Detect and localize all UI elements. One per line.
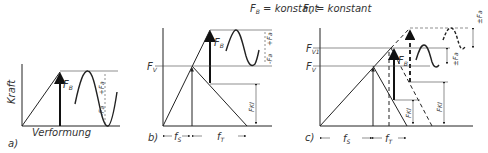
member-line (373, 66, 407, 126)
fs-label: fS (174, 131, 182, 143)
amp-plus-label: +Fa (266, 32, 274, 46)
x-axis-label: Verformung (32, 127, 91, 138)
amp-minus-label: ±Fa (452, 52, 460, 66)
clamp-label: FKl (405, 108, 413, 118)
panel-c: FV = konstant FV1 FV FB ±Fa ±Fa FKl FKl … (303, 3, 484, 145)
amp-plus-label: +Fa (98, 81, 106, 95)
panel-a-caption: a) (8, 138, 18, 149)
sine-wave (75, 71, 117, 126)
clamp-label: FKl (248, 102, 256, 112)
preload-label: FV (147, 61, 158, 73)
clamp1-label: FKl (436, 102, 444, 112)
bolt-line (320, 48, 391, 126)
amp-plus-label: ±Fa (476, 10, 484, 24)
bolt-line-ext (391, 28, 410, 48)
sine-wave-shifted (443, 28, 465, 49)
preload1-label: FV1 (306, 43, 320, 55)
fs-label: fS (343, 133, 351, 145)
panel-b-caption: b) (148, 132, 158, 143)
panel-c-heading: FV = konstant (303, 3, 372, 15)
load-line (22, 72, 60, 126)
force-label: FB (398, 55, 408, 67)
ft-label: fT (385, 133, 394, 145)
panel-b: FB = konstant FV FB +Fa -Fa FKl fS fT b) (147, 3, 319, 143)
ft-label: fT (217, 131, 226, 143)
member-line (192, 66, 247, 126)
force-label: FB (63, 79, 73, 91)
force-label: FB (214, 37, 224, 49)
force-deformation-diagrams: Kraft Verformung FB +Fa -Fa a) FB = kons… (0, 0, 488, 153)
panel-a: Kraft Verformung FB +Fa -Fa a) (6, 64, 120, 149)
amp-minus-label: -Fa (98, 105, 106, 116)
amp-minus-label: -Fa (266, 53, 274, 64)
sine-wave (226, 30, 259, 65)
panel-c-caption: c) (305, 132, 314, 143)
preload-label: FV (306, 61, 317, 73)
y-axis-label: Kraft (6, 79, 17, 104)
